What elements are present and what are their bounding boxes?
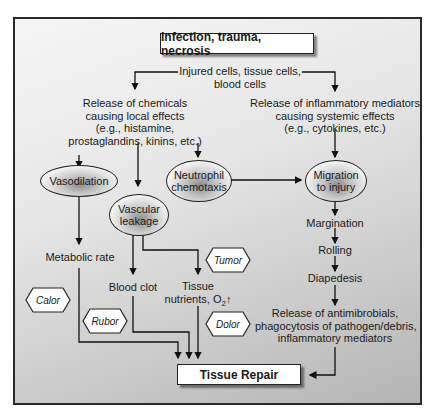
- rolling-label: Rolling: [295, 244, 375, 257]
- systemic-effects-label: Release of inflammatory mediators causin…: [250, 97, 420, 135]
- tissue-repair-box: Tissue Repair: [177, 364, 301, 385]
- injured-cells-label: Injured cells, tissue cells, blood cells: [170, 65, 310, 90]
- rubor-hexagon: Rubor: [82, 308, 128, 334]
- migration-to-injury-ellipse: Migration to injury: [305, 160, 367, 202]
- calor-hexagon: Calor: [25, 287, 71, 313]
- increase-arrow-icon: ↑: [226, 293, 232, 305]
- diapedesis-label: Diapedesis: [295, 272, 375, 285]
- bottom-box-label: Tissue Repair: [200, 368, 278, 382]
- release-antimicrobials-label: Release of antimibrobials, phagocytosis …: [255, 307, 415, 345]
- infection-trauma-necrosis-box: Infection, trauma, necrosis: [160, 33, 314, 54]
- connector-arrows: [0, 0, 430, 415]
- local-effects-label: Release of chemicals causing local effec…: [60, 97, 210, 147]
- dolor-hexagon: Dolor: [205, 311, 251, 337]
- metabolic-rate-label: Metabolic rate: [35, 251, 125, 264]
- vasodilation-ellipse: Vasodilation: [40, 165, 118, 197]
- blood-clot-label: Blood clot: [100, 281, 166, 294]
- vascular-leakage-ellipse: Vascular leakage: [109, 194, 169, 236]
- margination-label: Margination: [295, 217, 375, 230]
- tumor-hexagon: Tumor: [205, 247, 251, 273]
- tissue-nutrients-label: Tissue nutrients, O2↑: [160, 280, 236, 310]
- top-box-label: Infection, trauma, necrosis: [161, 30, 313, 58]
- neutrophil-chemotaxis-ellipse: Neutrophil chemotaxis: [166, 160, 232, 202]
